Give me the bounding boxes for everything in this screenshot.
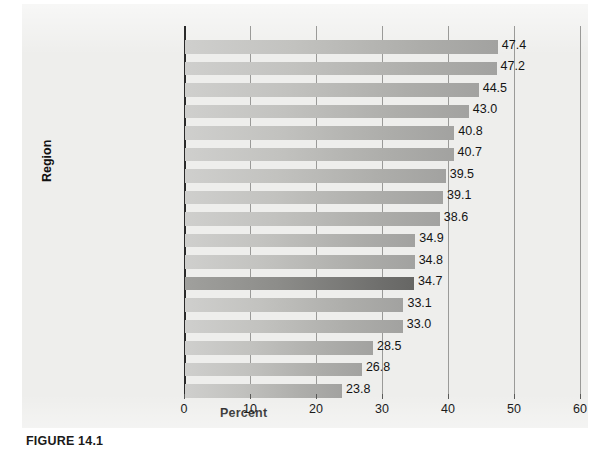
bar-row[interactable]: Oshawa47.2: [184, 58, 580, 80]
bar[interactable]: [185, 148, 454, 162]
bar[interactable]: [185, 255, 415, 269]
bar-row[interactable]: Windsor43.0: [184, 101, 580, 123]
bar-value-label: 40.7: [458, 145, 482, 159]
bar-row[interactable]: Calgary28.5: [184, 338, 580, 360]
bar-row[interactable]: Kitchener–Cambridge– Waterloo34.9: [184, 230, 580, 252]
figure-caption: FIGURE 14.1: [26, 434, 103, 448]
x-tick-label: 30: [375, 402, 389, 416]
bar-value-label: 33.0: [407, 317, 431, 331]
bar-value-label: 39.1: [447, 188, 471, 202]
bar-row[interactable]: Toronto47.4: [184, 37, 580, 59]
bar[interactable]: [185, 341, 373, 355]
x-tick-label: 50: [507, 402, 521, 416]
bar-row[interactable]: Ottawa–Gatineau33.0: [184, 316, 580, 338]
bar[interactable]: [185, 212, 440, 226]
x-tick-label: 40: [441, 402, 455, 416]
gridline-60: [580, 26, 581, 394]
bar-value-label: 34.7: [418, 274, 442, 288]
tick-mark-0: [184, 394, 185, 399]
bar-value-label: 34.9: [419, 231, 443, 245]
bar-row[interactable]: Vancouver38.6: [184, 209, 580, 231]
bar-chart-plot-area: Toronto47.4Oshawa47.2Hamilton44.5Windsor…: [184, 26, 580, 394]
bar-value-label: 39.5: [450, 167, 474, 181]
figure-panel: Region Toronto47.4Oshawa47.2Hamilton44.5…: [22, 4, 588, 428]
x-tick-label: 20: [309, 402, 323, 416]
bar-value-label: 23.8: [346, 382, 370, 396]
bar-row[interactable]: St. Catharines–Niagara40.7: [184, 144, 580, 166]
x-tick-label: 10: [243, 402, 257, 416]
bar-value-label: 44.5: [483, 81, 507, 95]
tick-mark-30: [382, 394, 383, 399]
bar-row[interactable]: Edmonton26.8: [184, 359, 580, 381]
bar[interactable]: [185, 62, 497, 76]
bar-row[interactable]: Abbotsford–Mission39.1: [184, 187, 580, 209]
bar-row[interactable]: Montréal33.1: [184, 295, 580, 317]
bar-value-label: 47.4: [502, 38, 526, 52]
bar-row[interactable]: Brantford39.5: [184, 166, 580, 188]
bar[interactable]: [185, 191, 443, 205]
bar-value-label: 40.8: [458, 124, 482, 138]
bar-value-label: 38.6: [444, 210, 468, 224]
bar-row[interactable]: Barrie40.8: [184, 123, 580, 145]
bar[interactable]: [185, 320, 403, 334]
y-axis-title: Region: [40, 140, 54, 182]
bar-value-label: 34.8: [419, 253, 443, 267]
bar-value-label: 43.0: [473, 102, 497, 116]
bar[interactable]: [185, 105, 469, 119]
bar[interactable]: [185, 169, 446, 183]
x-tick-label: 0: [181, 402, 188, 416]
bar-value-label: 47.2: [501, 59, 525, 73]
tick-mark-20: [316, 394, 317, 399]
tick-mark-40: [448, 394, 449, 399]
tick-mark-50: [514, 394, 515, 399]
tick-mark-10: [250, 394, 251, 399]
tick-mark-60: [580, 394, 581, 399]
bar[interactable]: [185, 363, 362, 377]
bar[interactable]: [185, 83, 479, 97]
bar-value-label: 26.8: [366, 360, 390, 374]
bar[interactable]: [185, 40, 498, 54]
bar[interactable]: [185, 234, 415, 248]
bar[interactable]: [185, 126, 454, 140]
bar[interactable]: [185, 298, 403, 312]
bar-row[interactable]: Canada34.7: [184, 273, 580, 295]
bar-row[interactable]: Winnipeg34.8: [184, 252, 580, 274]
x-tick-label: 60: [573, 402, 587, 416]
bar[interactable]: [185, 384, 342, 398]
bar-highlight[interactable]: [185, 277, 414, 291]
bar-row[interactable]: Hamilton44.5: [184, 80, 580, 102]
bar-value-label: 28.5: [377, 339, 401, 353]
bar-value-label: 33.1: [407, 296, 431, 310]
